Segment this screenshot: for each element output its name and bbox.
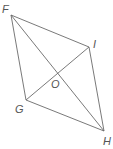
intersection-label-O: O (51, 78, 60, 90)
vertex-label-I: I (93, 38, 96, 50)
side-FI (11, 15, 89, 47)
vertex-label-H: H (103, 135, 111, 147)
diagonal-GI (26, 47, 89, 100)
side-HG (26, 100, 104, 131)
vertex-label-F: F (2, 3, 10, 15)
side-GF (11, 15, 26, 100)
vertex-label-G: G (15, 103, 24, 115)
side-IH (89, 47, 104, 131)
geometry-diagram: F I G H O (0, 0, 113, 149)
